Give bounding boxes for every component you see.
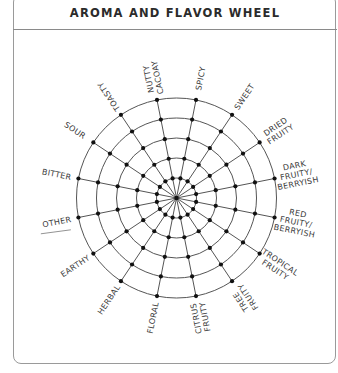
rating-dot[interactable] bbox=[155, 200, 159, 204]
label-floral: FLORAL bbox=[146, 301, 161, 334]
rating-dot[interactable] bbox=[208, 218, 212, 222]
rating-dot[interactable] bbox=[253, 180, 257, 184]
rating-dot[interactable] bbox=[116, 208, 120, 212]
rating-dot[interactable] bbox=[194, 294, 198, 298]
rating-dot[interactable] bbox=[186, 213, 190, 217]
rating-dot[interactable] bbox=[159, 274, 163, 278]
rating-dot[interactable] bbox=[141, 218, 145, 222]
rating-dot[interactable] bbox=[253, 212, 257, 216]
rating-dot[interactable] bbox=[119, 279, 123, 283]
rating-dot[interactable] bbox=[186, 255, 190, 259]
rating-dot[interactable] bbox=[152, 229, 156, 233]
rating-dot[interactable] bbox=[76, 176, 80, 180]
rating-dot[interactable] bbox=[167, 235, 171, 239]
rating-dot[interactable] bbox=[163, 137, 167, 141]
rating-dot[interactable] bbox=[219, 262, 223, 266]
rating-dot[interactable] bbox=[135, 188, 139, 192]
rating-dot[interactable] bbox=[141, 174, 145, 178]
rating-dot[interactable] bbox=[190, 274, 194, 278]
rating-dot[interactable] bbox=[219, 129, 223, 133]
label-nutty-cacoay: NUTTYCACOAY bbox=[141, 60, 165, 97]
rating-dot[interactable] bbox=[272, 215, 276, 219]
rating-dot[interactable] bbox=[191, 185, 195, 189]
rating-dot[interactable] bbox=[141, 146, 145, 150]
rating-dot[interactable] bbox=[96, 180, 100, 184]
rating-dot[interactable] bbox=[233, 208, 237, 212]
label-tropical-fruity: TROPICALFRUITY bbox=[254, 247, 300, 286]
rating-dot[interactable] bbox=[119, 113, 123, 117]
wheel-dots[interactable] bbox=[76, 98, 276, 298]
rating-dot[interactable] bbox=[125, 163, 129, 167]
other-write-in-line[interactable] bbox=[41, 230, 71, 234]
rating-dot[interactable] bbox=[241, 151, 245, 155]
label-sweet: SWEET bbox=[233, 82, 257, 112]
label-dried-fruity: DRIEDFRUITY bbox=[261, 115, 296, 147]
label-citrus-fruity: CITRUSFRUITY bbox=[189, 301, 213, 335]
label-dark-fruity-berryish: DARKFRUITY/BERRYISH bbox=[273, 157, 319, 192]
label-tree-fruity: TREEFRUITY bbox=[229, 282, 261, 317]
rating-dot[interactable] bbox=[116, 184, 120, 188]
center-dot bbox=[174, 196, 178, 200]
label-red-fruity-berryish: REDFRUITY/BERRYISH bbox=[273, 205, 319, 240]
rating-dot[interactable] bbox=[178, 176, 182, 180]
rating-dot[interactable] bbox=[155, 192, 159, 196]
rating-dot[interactable] bbox=[208, 146, 212, 150]
rating-dot[interactable] bbox=[155, 294, 159, 298]
label-other: OTHER bbox=[42, 215, 73, 230]
rating-dot[interactable] bbox=[158, 207, 162, 211]
rating-dot[interactable] bbox=[108, 151, 112, 155]
rating-dot[interactable] bbox=[194, 98, 198, 102]
label-earthy: EARTHY bbox=[59, 253, 92, 279]
rating-dot[interactable] bbox=[170, 176, 174, 180]
rating-dot[interactable] bbox=[167, 157, 171, 161]
rating-dot[interactable] bbox=[214, 188, 218, 192]
rating-dot[interactable] bbox=[91, 140, 95, 144]
rating-dot[interactable] bbox=[224, 229, 228, 233]
rating-dot[interactable] bbox=[125, 229, 129, 233]
rating-dot[interactable] bbox=[186, 137, 190, 141]
rating-dot[interactable] bbox=[91, 251, 95, 255]
rating-dot[interactable] bbox=[163, 213, 167, 217]
rating-dot[interactable] bbox=[230, 113, 234, 117]
rating-dot[interactable] bbox=[272, 176, 276, 180]
rating-dot[interactable] bbox=[224, 163, 228, 167]
flavor-wheel[interactable]: NUTTYCACOAYSPICYSWEETDRIEDFRUITYDARKFRUI… bbox=[0, 0, 338, 373]
rating-dot[interactable] bbox=[178, 216, 182, 220]
rating-dot[interactable] bbox=[130, 129, 134, 133]
rating-dot[interactable] bbox=[155, 98, 159, 102]
rating-dot[interactable] bbox=[194, 200, 198, 204]
label-bitter: BITTER bbox=[41, 167, 72, 182]
rating-dot[interactable] bbox=[208, 246, 212, 250]
rating-dot[interactable] bbox=[186, 179, 190, 183]
rating-dot[interactable] bbox=[197, 229, 201, 233]
rating-dot[interactable] bbox=[163, 255, 167, 259]
rating-dot[interactable] bbox=[108, 240, 112, 244]
rating-dot[interactable] bbox=[230, 279, 234, 283]
rating-dot[interactable] bbox=[158, 185, 162, 189]
rating-dot[interactable] bbox=[190, 117, 194, 121]
rating-dot[interactable] bbox=[141, 246, 145, 250]
rating-dot[interactable] bbox=[159, 117, 163, 121]
label-sour: SOUR bbox=[62, 120, 87, 141]
rating-dot[interactable] bbox=[96, 212, 100, 216]
rating-dot[interactable] bbox=[76, 215, 80, 219]
rating-dot[interactable] bbox=[194, 192, 198, 196]
rating-dot[interactable] bbox=[233, 184, 237, 188]
rating-dot[interactable] bbox=[170, 216, 174, 220]
rating-dot[interactable] bbox=[208, 174, 212, 178]
rating-dot[interactable] bbox=[258, 140, 262, 144]
rating-dot[interactable] bbox=[182, 157, 186, 161]
rating-dot[interactable] bbox=[197, 163, 201, 167]
rating-dot[interactable] bbox=[152, 163, 156, 167]
label-spicy: SPICY bbox=[194, 66, 208, 91]
rating-dot[interactable] bbox=[135, 204, 139, 208]
rating-dot[interactable] bbox=[191, 207, 195, 211]
rating-dot[interactable] bbox=[214, 204, 218, 208]
rating-dot[interactable] bbox=[182, 235, 186, 239]
label-herbal: HERBAL bbox=[96, 283, 122, 316]
rating-dot[interactable] bbox=[163, 179, 167, 183]
rating-dot[interactable] bbox=[241, 240, 245, 244]
label-toasty: TOASTY bbox=[96, 80, 122, 113]
rating-dot[interactable] bbox=[130, 262, 134, 266]
